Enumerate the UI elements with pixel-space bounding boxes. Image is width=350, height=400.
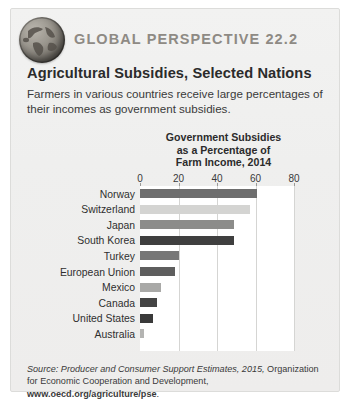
chart-title-line-1: Government Subsidies [131,131,316,144]
bar-mexico [140,283,161,292]
category-label-japan: Japan [107,221,135,231]
chart-title: Government Subsidies as a Percentage of … [131,131,316,169]
bar-turkey [140,251,179,260]
bar-australia [140,329,144,338]
x-tick-mark-40 [217,183,218,186]
category-label-european-union: European Union [60,268,135,278]
source-end: . [157,389,160,399]
source-note: Source: Producer and Consumer Support Es… [27,363,329,400]
category-label-switzerland: Switzerland [81,205,135,215]
category-label-canada: Canada [99,299,135,309]
gridline-80 [294,186,295,351]
bar-norway [140,189,257,198]
bar-south-korea [140,236,234,245]
figure-panel: GLOBAL PERSPECTIVE 22.2 Agricultural Sub… [10,8,340,392]
gridline-60 [256,186,257,351]
source-italic: Source: Producer and Consumer Support Es… [27,364,265,374]
figure-root: GLOBAL PERSPECTIVE 22.2 Agricultural Sub… [0,0,350,400]
x-tick-mark-20 [179,183,180,186]
bar-united-states [140,314,153,323]
category-label-norway: Norway [100,190,135,200]
source-url: www.oecd.org/agriculture/pse [27,389,157,399]
bar-japan [140,220,234,229]
x-tick-mark-80 [294,183,295,186]
category-label-turkey: Turkey [104,252,135,262]
chart-title-line-3: Farm Income, 2014 [131,156,316,169]
x-tick-mark-0 [140,183,141,186]
category-label-south-korea: South Korea [77,236,135,246]
bar-switzerland [140,205,250,214]
category-label-united-states: United States [73,314,135,324]
bar-chart: Government Subsidies as a Percentage of … [11,9,341,393]
category-label-mexico: Mexico [102,283,135,293]
bar-european-union [140,267,175,276]
bar-canada [140,298,157,307]
plot-area [140,186,294,351]
chart-title-line-2: as a Percentage of [131,144,316,157]
x-tick-mark-60 [256,183,257,186]
category-label-australia: Australia [95,330,135,340]
